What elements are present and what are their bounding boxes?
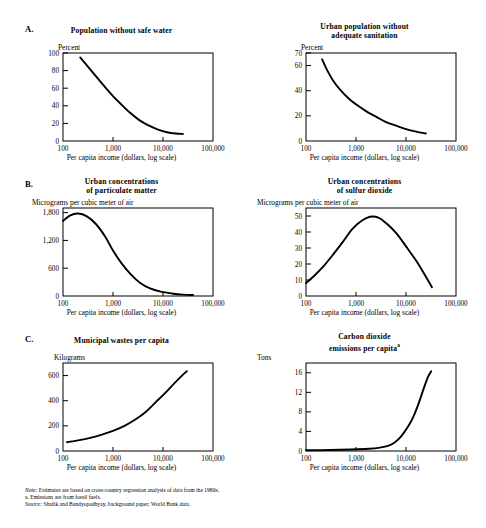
chart-panel-carbon-dioxide-emissions-per-capita: Carbon dioxide emissions per capitaa Ton…	[243, 330, 486, 485]
x-tick-label: 100	[301, 300, 312, 308]
x-tick-label: 1,000	[105, 455, 122, 463]
chart-plot-area: 04812161001,00010,000100,000	[243, 330, 486, 485]
chart-panel-municipal-wastes-per-capita: Municipal wastes per capita Kilograms 02…	[0, 330, 243, 485]
x-tick-label: 1,000	[348, 455, 365, 463]
y-tick-label: 40	[295, 87, 303, 95]
x-tick-label: 1,000	[105, 300, 122, 308]
chart-plot-area: 02004006001001,00010,000100,000	[0, 330, 243, 485]
note-line: Note: Estimates are based on cross-count…	[25, 487, 465, 494]
y-tick-label: 80	[52, 67, 60, 75]
x-tick-label: 1,000	[105, 145, 122, 153]
data-curve	[80, 57, 183, 134]
y-tick-label: 600	[48, 265, 59, 273]
source-label: Source:	[25, 501, 42, 507]
chart-panel-population-without-safe-water: Population without safe water Percent 02…	[0, 20, 243, 175]
panel-row-c: C. Municipal wastes per capita Kilograms…	[0, 330, 486, 485]
x-tick-label: 10,000	[153, 455, 173, 463]
x-axis-caption: Per capita income (dollars, log scale)	[243, 308, 486, 317]
y-tick-label: 60	[295, 62, 303, 70]
x-tick-label: 10,000	[153, 145, 173, 153]
y-tick-label: 20	[52, 120, 60, 128]
x-tick-label: 10,000	[153, 300, 173, 308]
y-tick-label: 10	[295, 277, 303, 285]
chart-plot-area: 0204060801001001,00010,000100,000	[0, 20, 243, 175]
chart-panel-urban-concentrations-of-particulate-matter: Urban concentrations of particulate matt…	[0, 175, 243, 330]
data-curve	[306, 371, 431, 450]
y-tick-label: 20	[295, 112, 303, 120]
data-curve	[67, 371, 187, 442]
y-tick-label: 40	[295, 229, 303, 237]
note-label: Note:	[25, 487, 37, 493]
x-axis-caption: Per capita income (dollars, log scale)	[243, 463, 486, 472]
footnote-a-line: a. Emissions are from fossil fuels.	[25, 494, 465, 501]
x-axis-caption: Per capita income (dollars, log scale)	[0, 463, 243, 472]
x-tick-label: 100,000	[444, 300, 468, 308]
y-tick-label: 50	[295, 213, 303, 221]
x-tick-label: 100,000	[444, 455, 468, 463]
x-tick-label: 10,000	[396, 145, 416, 153]
data-curve	[63, 214, 193, 296]
panel-row-a: A. Population without safe water Percent…	[0, 20, 486, 175]
x-tick-label: 100	[301, 145, 312, 153]
y-tick-label: 8	[298, 408, 302, 416]
chart-panel-urban-concentrations-of-sulfur-dioxide: Urban concentrations of sulfur dioxide M…	[243, 175, 486, 330]
x-tick-label: 100,000	[444, 145, 468, 153]
chart-plot-area: 010203040501001,00010,000100,000	[243, 175, 486, 330]
y-tick-label: 12	[295, 389, 303, 397]
y-tick-label: 1,200	[43, 237, 60, 245]
y-tick-label: 200	[48, 422, 59, 430]
y-tick-label: 100	[48, 50, 59, 58]
data-curve	[306, 217, 432, 288]
figure-environmental-indicators: A. Population without safe water Percent…	[0, 0, 486, 528]
x-axis-caption: Per capita income (dollars, log scale)	[0, 153, 243, 162]
figure-notes: Note: Estimates are based on cross-count…	[25, 487, 465, 509]
chart-panel-urban-population-without-adequate-sanitation: Urban population without adequate sanita…	[243, 20, 486, 175]
y-tick-label: 16	[295, 369, 303, 377]
data-curve	[322, 59, 426, 133]
chart-plot-area: 0204060701001,00010,000100,000	[243, 20, 486, 175]
y-tick-label: 400	[48, 397, 59, 405]
x-tick-label: 1,000	[348, 300, 365, 308]
source-line: Source: Shafik and Bandyopadhyay, backgr…	[25, 501, 465, 508]
x-tick-label: 100	[58, 145, 69, 153]
x-tick-label: 100,000	[201, 145, 225, 153]
source-text: Shafik and Bandyopadhyay, background pap…	[42, 501, 190, 507]
y-tick-label: 4	[298, 428, 302, 436]
y-tick-label: 60	[52, 85, 60, 93]
x-tick-label: 100	[301, 455, 312, 463]
y-tick-label: 70	[295, 50, 303, 58]
y-tick-label: 1,800	[43, 209, 60, 217]
x-tick-label: 1,000	[348, 145, 365, 153]
y-tick-label: 40	[52, 102, 60, 110]
x-tick-label: 100	[58, 455, 69, 463]
x-axis-caption: Per capita income (dollars, log scale)	[243, 153, 486, 162]
x-tick-label: 10,000	[396, 455, 416, 463]
y-tick-label: 30	[295, 245, 303, 253]
x-tick-label: 10,000	[396, 300, 416, 308]
chart-plot-area: 06001,2001,8001001,00010,000100,000	[0, 175, 243, 330]
note-text: Estimates are based on cross-country reg…	[37, 487, 219, 493]
x-axis-caption: Per capita income (dollars, log scale)	[0, 308, 243, 317]
y-tick-label: 20	[295, 261, 303, 269]
x-tick-label: 100,000	[201, 300, 225, 308]
x-tick-label: 100	[58, 300, 69, 308]
panel-row-b: B. Urban concentrations of particulate m…	[0, 175, 486, 330]
x-tick-label: 100,000	[201, 455, 225, 463]
y-tick-label: 600	[48, 372, 59, 380]
